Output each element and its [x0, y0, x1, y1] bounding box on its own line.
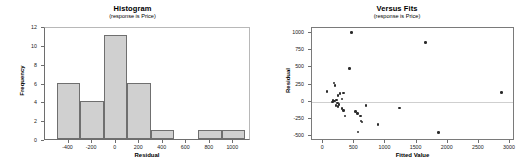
versus-fits-x-tick [447, 140, 448, 143]
figure-page: Histogram (response is Price) -400-20002… [0, 0, 529, 166]
histogram-x-tick [68, 140, 69, 143]
versus-fits-x-tick-label: 0 [307, 144, 337, 150]
versus-fits-x-tick-label: 1000 [369, 144, 399, 150]
versus-fits-x-tick-label: 2000 [432, 144, 462, 150]
versus-fits-y-tick-label: -250 [278, 115, 304, 121]
versus-fits-x-tick [384, 140, 385, 143]
versus-fits-y-tick [308, 32, 311, 33]
histogram-y-axis-title: Frequency [19, 51, 26, 111]
scatter-point [424, 41, 427, 44]
histogram-bar [104, 35, 128, 139]
versus-fits-y-tick [308, 118, 311, 119]
histogram-plot-area [44, 27, 250, 140]
scatter-point [359, 115, 362, 118]
versus-fits-plot-area [311, 27, 514, 140]
scatter-point [331, 101, 334, 104]
scatter-point [337, 94, 340, 97]
versus-fits-x-tick-label: 3000 [494, 144, 524, 150]
scatter-point [334, 84, 337, 87]
histogram-bars [45, 28, 249, 139]
histogram-x-tick [91, 140, 92, 143]
histogram-bar [57, 83, 81, 140]
scatter-point [342, 109, 345, 112]
histogram-x-tick-label: 1000 [217, 144, 247, 150]
versus-fits-subtitle: (response is Price) [265, 13, 529, 20]
scatter-point [348, 67, 351, 70]
versus-fits-x-axis-title: Fitted Value [311, 152, 514, 159]
scatter-point [341, 98, 344, 101]
versus-fits-y-tick [308, 135, 311, 136]
versus-fits-y-tick-label: 1000 [278, 29, 304, 35]
versus-fits-y-tick [308, 101, 311, 102]
histogram-y-tick [41, 65, 44, 66]
scatter-point [344, 115, 347, 118]
scatter-point [500, 91, 503, 94]
histogram-title: Histogram [0, 4, 265, 13]
histogram-y-tick-label: 2 [11, 118, 37, 124]
histogram-panel: Histogram (response is Price) -400-20002… [0, 0, 265, 166]
histogram-y-tick [41, 121, 44, 122]
scatter-point [365, 104, 368, 107]
versus-fits-x-tick [416, 140, 417, 143]
histogram-bar [222, 130, 246, 139]
versus-fits-x-tick-label: 2500 [463, 144, 493, 150]
histogram-bar [198, 130, 222, 139]
scatter-point [326, 90, 329, 93]
histogram-y-tick [41, 84, 44, 85]
versus-fits-x-tick [509, 140, 510, 143]
histogram-x-tick [115, 140, 116, 143]
scatter-point [437, 131, 440, 134]
scatter-point [357, 131, 360, 134]
scatter-point [377, 123, 380, 126]
histogram-x-tick [209, 140, 210, 143]
versus-fits-y-axis-title: Residual [285, 51, 292, 111]
versus-fits-x-tick [322, 140, 323, 143]
histogram-y-tick [41, 140, 44, 141]
versus-fits-x-tick [478, 140, 479, 143]
histogram-bar [151, 130, 175, 139]
scatter-point [350, 31, 353, 34]
versus-fits-y-tick-label: -500 [278, 132, 304, 138]
scatter-point [339, 92, 342, 95]
scatter-point [361, 121, 364, 124]
histogram-y-tick [41, 102, 44, 103]
versus-fits-y-tick [308, 66, 311, 67]
versus-fits-y-tick [308, 84, 311, 85]
scatter-point [398, 107, 401, 110]
histogram-y-tick-label: 0 [11, 137, 37, 143]
histogram-subtitle: (response is Price) [0, 13, 265, 20]
histogram-bar [80, 101, 104, 139]
scatter-point [342, 92, 345, 95]
histogram-x-tick [232, 140, 233, 143]
histogram-y-tick [41, 46, 44, 47]
histogram-x-tick [162, 140, 163, 143]
histogram-y-tick-label: 10 [11, 43, 37, 49]
versus-fits-y-tick [308, 49, 311, 50]
histogram-x-tick [138, 140, 139, 143]
versus-fits-title: Versus Fits [265, 4, 529, 13]
versus-fits-points [312, 28, 513, 139]
histogram-x-axis-title: Residual [44, 152, 250, 159]
versus-fits-x-tick [353, 140, 354, 143]
versus-fits-x-tick-label: 1500 [401, 144, 431, 150]
histogram-x-tick [185, 140, 186, 143]
versus-fits-x-tick-label: 500 [338, 144, 368, 150]
histogram-y-tick-label: 12 [11, 24, 37, 30]
histogram-y-tick [41, 27, 44, 28]
histogram-bar [127, 83, 151, 140]
